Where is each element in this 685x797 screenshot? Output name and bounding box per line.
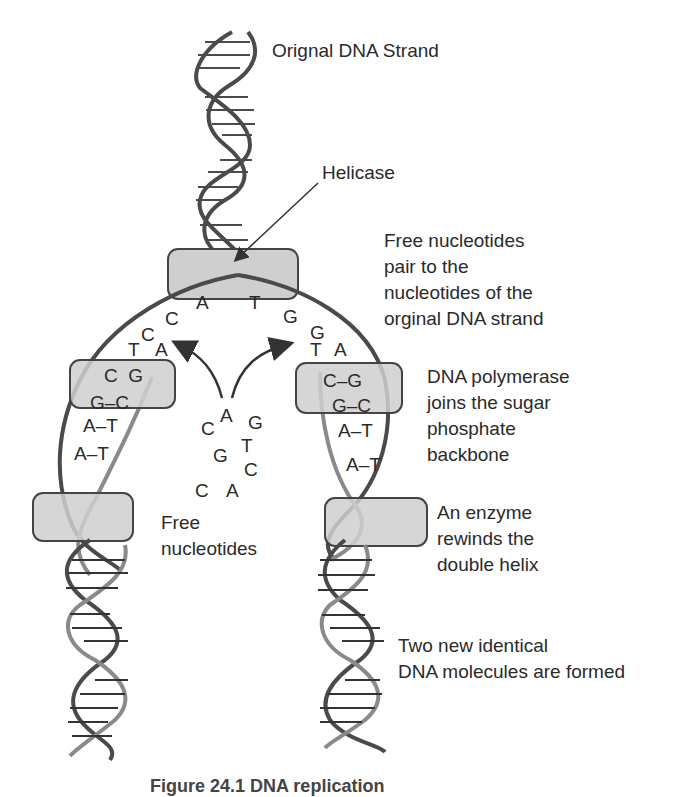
left-pair-3: A–T	[83, 413, 118, 439]
label-two-new-molecules: Two new identical DNA molecules are form…	[398, 633, 625, 685]
rewind-enzyme-right	[325, 498, 427, 546]
base-right-arc-1: G	[283, 304, 298, 330]
free-base-2: C	[201, 416, 215, 442]
arrow-to-left-fork	[180, 345, 222, 398]
arrow-to-right-fork	[232, 345, 285, 398]
label-dna-polymerase: DNA polymerase joins the sugar phosphate…	[427, 364, 570, 468]
free-base-4: T	[241, 433, 253, 459]
base-top-left: A	[196, 290, 209, 316]
helicase-pointer	[238, 183, 318, 258]
rewind-enzyme-left	[33, 493, 133, 541]
label-rewind-enzyme: An enzyme rewinds the double helix	[437, 500, 538, 578]
base-right-arc-4: A	[334, 337, 347, 363]
free-base-7: C	[195, 478, 209, 504]
label-free-nucleotides: Free nucleotides	[161, 510, 257, 562]
free-base-5: G	[213, 443, 228, 469]
original-dna-helix	[196, 32, 255, 265]
left-pair-1: C G	[104, 363, 143, 389]
right-pair-2: G–C	[332, 393, 371, 419]
base-right-arc-3: T	[310, 337, 322, 363]
right-pair-3: A–T	[338, 418, 373, 444]
label-original-strand: Orignal DNA Strand	[272, 38, 439, 64]
free-base-8: A	[226, 478, 239, 504]
figure-caption: Figure 24.1 DNA replication	[150, 776, 384, 797]
free-base-1: A	[220, 403, 233, 429]
right-pair-1: C–G	[323, 368, 362, 394]
base-left-arc-1: C	[165, 306, 179, 332]
new-dna-helix-right	[318, 540, 385, 752]
new-dna-helix-left	[66, 540, 128, 760]
left-pair-4: A–T	[74, 441, 109, 467]
base-left-arc-3: T	[128, 337, 140, 363]
label-free-nucleotides-pair: Free nucleotides pair to the nucleotides…	[384, 228, 543, 332]
free-base-6: C	[244, 457, 258, 483]
base-left-arc-2: C	[141, 322, 155, 348]
right-pair-4: A–T	[346, 452, 381, 478]
label-helicase: Helicase	[322, 160, 395, 186]
base-left-arc-4: A	[155, 337, 168, 363]
base-top-right: T	[249, 290, 261, 316]
